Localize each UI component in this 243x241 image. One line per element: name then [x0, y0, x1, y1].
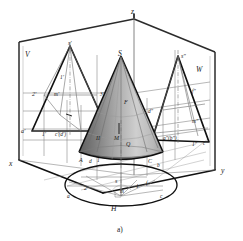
level-line-mid-right: [134, 100, 210, 111]
v-plane-top-edge: [19, 19, 134, 42]
label-base-a: A: [78, 157, 83, 163]
label-profile-ddprime: d": [148, 108, 154, 114]
label-front-cprime-dprime: c'(d'): [55, 131, 66, 138]
label-top-c: c: [160, 193, 163, 199]
label-base-c: C: [148, 158, 153, 164]
cone-solid: [79, 56, 163, 196]
label-base-1: 1: [97, 157, 100, 163]
label-point-f: F: [123, 99, 128, 105]
label-apex-s: S: [118, 49, 122, 58]
figure-canvas: z x y V W H s' 1' 2' 3' m' a' 1' c'(d') …: [0, 0, 243, 241]
front-polyline-m: [44, 95, 81, 131]
label-top-1: 1: [136, 183, 139, 189]
descriptive-geometry-drawing: z x y V W H s' 1' 2' 3' m' a' 1' c'(d') …: [0, 0, 243, 241]
front-gen-2: [44, 46, 70, 95]
profile-chord-upper: [163, 104, 205, 110]
label-top-a: a: [67, 193, 70, 199]
label-front-2prime: 2': [32, 91, 37, 97]
figure-caption: a): [117, 225, 123, 234]
label-top-m: m: [120, 188, 124, 194]
label-profile-cdprime: c": [203, 140, 208, 146]
profile-projection-triangle: [152, 50, 209, 143]
axis-x-line: [19, 160, 103, 193]
label-axis-y: y: [220, 166, 225, 175]
label-profile-mdprime: m": [192, 118, 199, 124]
label-axis-x: x: [8, 159, 13, 168]
label-base-d: d: [89, 158, 92, 164]
label-profile-fdprime: f": [192, 88, 196, 94]
label-region-q: Q: [126, 141, 131, 147]
label-profile-apex-sdprime: s": [181, 53, 186, 59]
label-axis-z: z: [130, 7, 134, 16]
label-front-aprime: a': [21, 128, 26, 134]
label-front-mprime: m': [54, 91, 60, 97]
label-profile-adprime-bdprime: a"(b"): [163, 135, 177, 142]
label-front-1prime-base: 1': [42, 131, 47, 137]
label-top-2: 2: [84, 185, 87, 191]
label-plane-w: W: [196, 65, 203, 74]
label-plane-v: V: [25, 50, 31, 59]
profile-gen-left: [152, 56, 178, 140]
profile-gen-1: [178, 56, 198, 136]
level-line-2prime-right: [134, 82, 210, 93]
label-profile-1dprime: 1": [192, 141, 198, 147]
label-plane-h: H: [110, 204, 117, 213]
label-base-b: b: [157, 162, 160, 168]
label-point-m: M: [113, 135, 120, 141]
label-front-apex-sprime: s': [68, 40, 72, 46]
label-front-3prime: 3': [99, 91, 105, 97]
w-plane-top-edge: [134, 19, 215, 52]
label-front-1prime: 1': [60, 74, 65, 80]
